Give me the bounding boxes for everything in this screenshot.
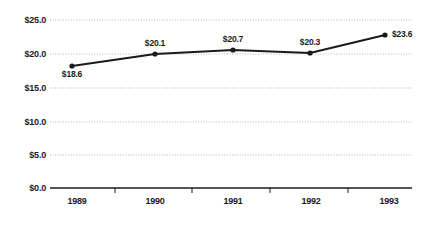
x-tick-label-1991: 1991 <box>208 196 258 206</box>
y-tick-label-25: $25.0 <box>6 15 46 25</box>
chart-plot-area <box>0 0 440 226</box>
data-point-1991[interactable] <box>230 47 235 52</box>
data-point-1992[interactable] <box>307 50 312 55</box>
point-label-1989: $18.6 <box>51 70 93 79</box>
data-point-1989[interactable] <box>69 63 74 68</box>
x-tick-label-1993: 1993 <box>364 196 414 206</box>
y-tick-label-10: $10.0 <box>6 117 46 127</box>
x-tick-label-1992: 1992 <box>286 196 336 206</box>
data-point-1990[interactable] <box>152 51 157 56</box>
x-tick-label-1989: 1989 <box>52 196 102 206</box>
data-point-1993[interactable] <box>382 32 387 37</box>
point-label-1992: $20.3 <box>289 38 331 47</box>
x-axis <box>50 188 412 193</box>
y-tick-label-0: $0.0 <box>6 183 46 193</box>
line-chart: $25.0 $20.0 $15.0 $10.0 $5.0 $0.0 1989 1… <box>0 0 440 226</box>
point-label-1990: $20.1 <box>134 39 176 48</box>
x-tick-label-1990: 1990 <box>130 196 180 206</box>
y-tick-label-5: $5.0 <box>6 150 46 160</box>
y-tick-label-20: $20.0 <box>6 49 46 59</box>
point-label-1993: $23.6 <box>392 30 434 39</box>
point-label-1991: $20.7 <box>212 35 254 44</box>
y-tick-label-15: $15.0 <box>6 83 46 93</box>
